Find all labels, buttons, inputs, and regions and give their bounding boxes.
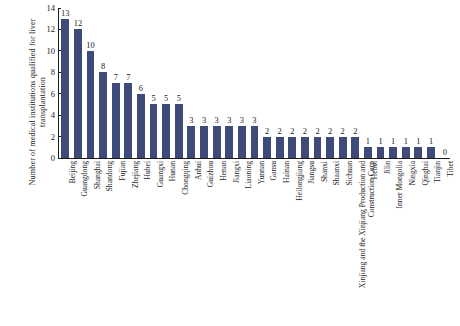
x-label-cell: Qinghai [412,161,425,321]
bar-item[interactable]: 3 [223,8,236,158]
bar[interactable] [150,104,158,158]
bar[interactable] [414,147,422,158]
bar-item[interactable]: 0 [437,8,450,158]
x-label-cell: Shanxi [311,161,324,321]
x-label-cell: Tianjin [425,161,438,321]
bar[interactable] [187,126,195,158]
bar-item[interactable]: 3 [210,8,223,158]
bar[interactable] [364,147,372,158]
bar[interactable] [200,126,208,158]
bar-item[interactable]: 1 [387,8,400,158]
bar[interactable] [175,104,183,158]
x-label-cell: Tibet [437,161,450,321]
bar[interactable] [339,137,347,158]
x-label-cell: Zhejiang [122,161,135,321]
bar-item[interactable]: 2 [299,8,312,158]
x-label-cell: Xinjiang and the Xinjiang Production and… [349,161,362,321]
bar[interactable] [74,29,82,158]
x-axis-labels: BeijingGuangdongShanghaiShandongFujianZh… [59,161,450,321]
bar[interactable] [112,83,120,158]
bar-item[interactable]: 7 [109,8,122,158]
bar[interactable] [61,19,69,158]
y-tick-label: 14 [46,3,58,13]
bar-item[interactable]: 2 [324,8,337,158]
bar-value-label: 3 [227,116,231,125]
bar[interactable] [99,72,107,158]
bar[interactable] [301,137,309,158]
bar[interactable] [427,147,435,158]
bar-value-label: 13 [61,9,69,18]
bar-value-label: 7 [114,73,118,82]
bar-item[interactable]: 2 [349,8,362,158]
bar-value-label: 6 [139,84,143,93]
y-tick-label: 12 [46,24,58,34]
x-label-cell: Guizhou [198,161,211,321]
bar[interactable] [326,137,334,158]
x-label-cell: Ningxia [399,161,412,321]
bar-item[interactable]: 1 [425,8,438,158]
bar[interactable] [377,147,385,158]
bar[interactable] [238,126,246,158]
bar-item[interactable]: 2 [286,8,299,158]
x-label-cell: Jilin [374,161,387,321]
bar-value-label: 2 [328,127,332,136]
bar[interactable] [351,137,359,158]
bar[interactable] [389,147,397,158]
bar[interactable] [213,126,221,158]
bar-item[interactable]: 2 [273,8,286,158]
bar-item[interactable]: 1 [412,8,425,158]
bar-item[interactable]: 5 [147,8,160,158]
bar-value-label: 3 [215,116,219,125]
bar-item[interactable]: 5 [160,8,173,158]
bar[interactable] [251,126,259,158]
bar-item[interactable]: 2 [336,8,349,158]
bar-item[interactable]: 2 [311,8,324,158]
y-tick-label: 10 [46,46,58,56]
x-label-cell: Hainan [273,161,286,321]
bar[interactable] [225,126,233,158]
bar-value-label: 2 [265,127,269,136]
bar-value-label: 3 [240,116,244,125]
bar-item[interactable]: 3 [185,8,198,158]
bar[interactable] [137,94,145,158]
bar-value-label: 5 [164,94,168,103]
bar-value-label: 1 [404,137,408,146]
x-label-cell: Inner Mongolia [387,161,400,321]
x-label-cell: Liaoning [236,161,249,321]
bar-value-label: 8 [101,62,105,71]
bar-value-label: 1 [366,137,370,146]
bar-item[interactable]: 1 [362,8,375,158]
x-label-cell: Shandong [97,161,110,321]
bar-value-label: 2 [303,127,307,136]
bar-item[interactable]: 6 [135,8,148,158]
bar-value-label: 2 [278,127,282,136]
bar-value-label: 7 [126,73,130,82]
x-axis-line [58,158,450,159]
bar-item[interactable]: 1 [374,8,387,158]
bar-value-label: 2 [341,127,345,136]
y-tick-label: 2 [51,132,58,142]
bar-item[interactable]: 1 [399,8,412,158]
bar[interactable] [276,137,284,158]
bar-item[interactable]: 7 [122,8,135,158]
bar-item[interactable]: 8 [97,8,110,158]
bar[interactable] [162,104,170,158]
bar-item[interactable]: 5 [172,8,185,158]
x-label-cell: Beijing [59,161,72,321]
bar-item[interactable]: 10 [84,8,97,158]
bar[interactable] [402,147,410,158]
bar-item[interactable]: 12 [72,8,85,158]
bar-item[interactable]: 3 [236,8,249,158]
bar-item[interactable]: 3 [248,8,261,158]
bar[interactable] [288,137,296,158]
bar[interactable] [87,51,95,158]
bar-item[interactable]: 13 [59,8,72,158]
bar-item[interactable]: 3 [198,8,211,158]
bar-item[interactable]: 2 [261,8,274,158]
bar-value-label: 2 [353,127,357,136]
bar[interactable] [314,137,322,158]
bar-value-label: 5 [151,94,155,103]
bar[interactable] [124,83,132,158]
bar[interactable] [263,137,271,158]
bar-value-label: 1 [391,137,395,146]
